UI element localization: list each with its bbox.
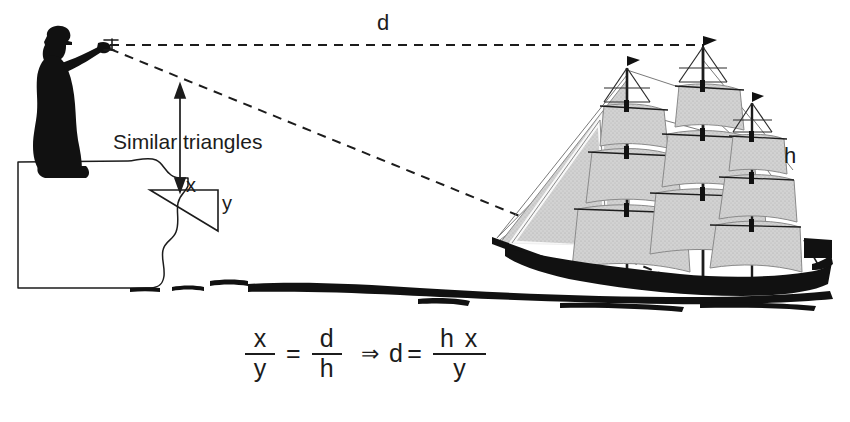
fraction-d-over-h: d h (312, 326, 342, 381)
distance-label: d (377, 10, 389, 36)
result-variable: d (389, 339, 403, 368)
ship-height-label: h (784, 143, 796, 169)
triangle-y-label: y (222, 192, 232, 215)
fraction-denominator: h (313, 355, 341, 382)
fraction-numerator: d (313, 326, 341, 353)
sailing-ship (130, 36, 833, 312)
fraction-hx-over-y: h x y (433, 326, 486, 381)
implies-sign: ⇒ (361, 341, 379, 367)
triangle-x-label: x (186, 174, 196, 197)
fraction-x-over-y: x y (245, 326, 275, 381)
formula-expression: x y = d h ⇒ d = h x y (238, 326, 493, 381)
fraction-denominator: y (446, 355, 473, 382)
equals-sign: = (286, 339, 301, 368)
diagram-canvas: d h x y Similar triangles x y = d h ⇒ d … (0, 0, 850, 422)
fraction-denominator: y (247, 355, 274, 382)
fraction-numerator: h x (433, 326, 486, 353)
cliff-outline (18, 158, 188, 288)
result-equals-sign: = (407, 339, 422, 368)
observer-silhouette (33, 26, 111, 178)
similar-triangles-label: Similar triangles (113, 130, 262, 154)
fraction-numerator: x (247, 326, 274, 353)
